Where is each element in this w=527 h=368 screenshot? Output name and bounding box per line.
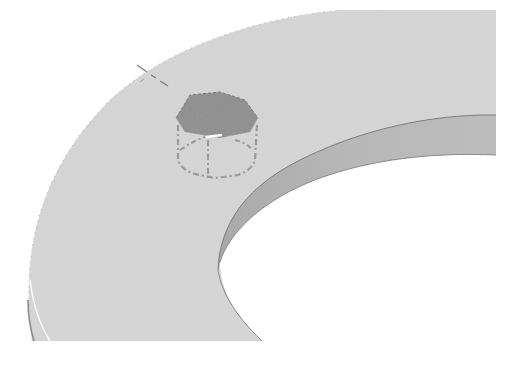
- graphics-viewport[interactable]: Graphics area: [0, 0, 527, 368]
- model-canvas[interactable]: [0, 0, 527, 368]
- ring-part[interactable]: [28, 10, 496, 341]
